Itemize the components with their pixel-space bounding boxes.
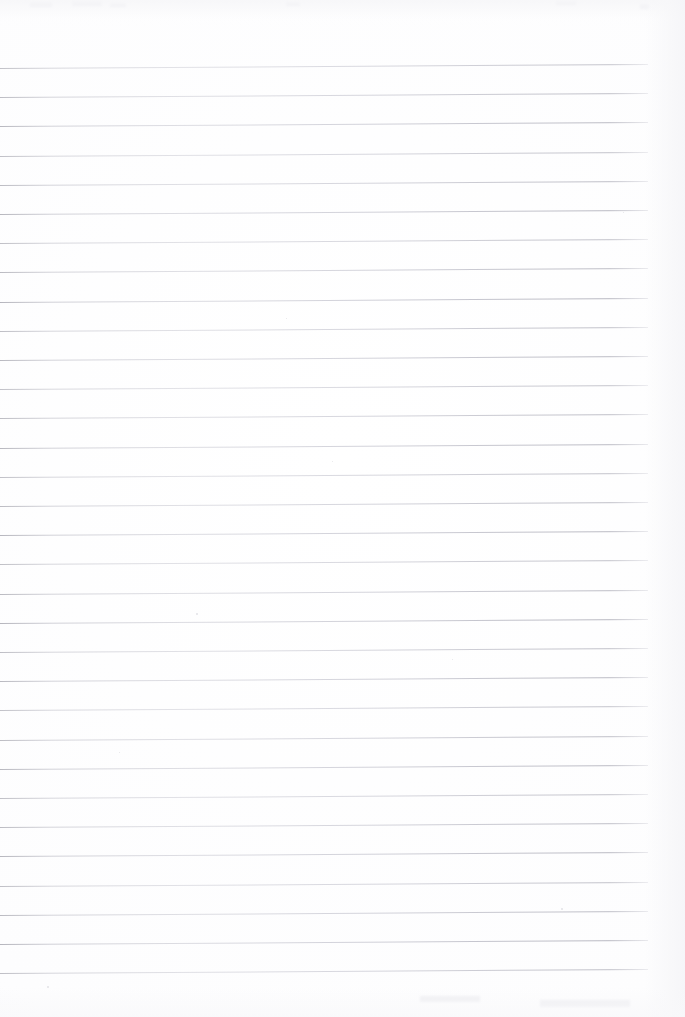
ruled-line (0, 794, 648, 799)
ruled-line (0, 648, 648, 653)
ruled-line (0, 239, 648, 244)
ruled-line (0, 64, 648, 69)
scan-top-edge-shading (0, 0, 685, 26)
scanned-page (0, 0, 685, 1017)
ruled-line (0, 736, 648, 741)
ruled-lines-layer (0, 0, 685, 1017)
ruled-line (0, 502, 648, 507)
ruled-line (0, 823, 648, 828)
ruled-line (0, 590, 648, 595)
ruled-line (0, 531, 648, 536)
ruled-line (0, 882, 648, 887)
ruled-line (0, 473, 648, 478)
ruled-line (0, 619, 648, 624)
ruled-line (0, 298, 648, 303)
ruled-line (0, 911, 648, 916)
scan-speck (332, 461, 333, 462)
scan-speck (561, 908, 563, 910)
scan-speck (119, 752, 120, 753)
scan-bottom-edge-shading (0, 987, 685, 1017)
ruled-line (0, 852, 648, 857)
scan-speck (196, 613, 198, 615)
ruled-line (0, 268, 648, 273)
ruled-line (0, 152, 648, 157)
scan-right-margin-shading (645, 0, 685, 1017)
ruled-line (0, 706, 648, 711)
ruled-line (0, 969, 648, 974)
ruled-line (0, 210, 648, 215)
ruled-line (0, 444, 648, 449)
ruled-line (0, 181, 648, 186)
ruled-line (0, 677, 648, 682)
ruled-line (0, 385, 648, 390)
ruled-line (0, 122, 648, 127)
ruled-line (0, 327, 648, 332)
scan-speck (623, 212, 624, 213)
scan-speck (286, 318, 287, 319)
ruled-line (0, 765, 648, 770)
ruled-line (0, 356, 648, 361)
ruled-line (0, 93, 648, 98)
ruled-line (0, 414, 648, 419)
ruled-line (0, 940, 648, 945)
scan-speck (452, 659, 453, 660)
ruled-line (0, 560, 648, 565)
